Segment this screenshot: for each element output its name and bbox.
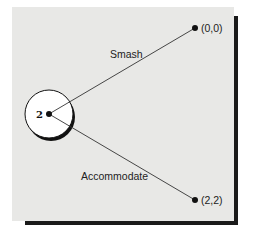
terminal-node-smash xyxy=(192,25,198,31)
action-label-accommodate: Accommodate xyxy=(81,170,148,182)
branch-line-smash xyxy=(49,28,195,114)
action-label-smash: Smash xyxy=(110,48,143,60)
branch-line-accommodate xyxy=(49,114,195,200)
payoff-label-accommodate: (2,2) xyxy=(201,194,223,206)
terminal-node-accommodate xyxy=(192,197,198,203)
payoff-label-smash: (0,0) xyxy=(201,22,223,34)
player-label: 2 xyxy=(36,109,43,120)
decision-node-dot xyxy=(46,111,52,117)
game-tree-diagram: 2 Smash Accommodate (0,0) (2,2) xyxy=(0,0,253,235)
